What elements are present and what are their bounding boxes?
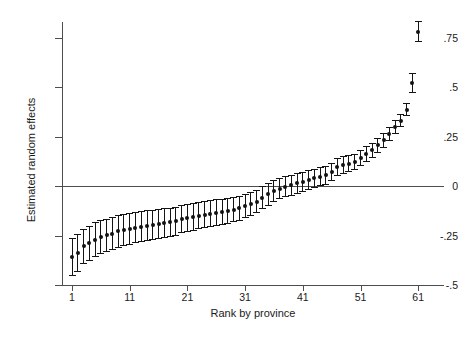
error-bar-lower-cap [253, 212, 260, 213]
error-bar-lower-cap [265, 205, 272, 206]
error-bar-lower-cap [340, 173, 347, 174]
error-bar-lower-cap [409, 92, 416, 93]
error-bar-lower-cap [109, 249, 116, 250]
error-bar-lower-cap [201, 227, 208, 228]
error-bar-lower-cap [86, 260, 93, 261]
error-bar-lower-cap [357, 165, 364, 166]
error-bar-lower-cap [397, 126, 404, 127]
error-bar-lower-cap [236, 220, 243, 221]
error-bar-lower-cap [138, 241, 145, 242]
point-marker [399, 119, 403, 123]
point-marker [416, 30, 420, 34]
error-bar-lower-cap [392, 133, 399, 134]
error-bar-lower-cap [374, 152, 381, 153]
error-bar-lower-cap [363, 161, 370, 162]
series-estimated-random-effects [0, 0, 458, 348]
error-bar-lower-cap [167, 236, 174, 237]
chart-figure: .75.5.250-.25-.5 1112131415161 Estimated… [0, 0, 458, 348]
error-bar-lower-cap [230, 221, 237, 222]
error-bar-upper-cap [409, 73, 416, 74]
error-bar-lower-cap [103, 251, 110, 252]
error-bar-lower-cap [328, 180, 335, 181]
error-bar-lower-cap [369, 157, 376, 158]
error-bar-lower-cap [276, 198, 283, 199]
error-bar-lower-cap [345, 171, 352, 172]
error-bar-lower-cap [80, 263, 87, 264]
error-bar-lower-cap [288, 195, 295, 196]
error-bar-lower-cap [213, 225, 220, 226]
error-bar-lower-cap [242, 217, 249, 218]
error-bar-lower-cap [92, 256, 99, 257]
error-bar-lower-cap [317, 185, 324, 186]
error-bar-lower-cap [247, 215, 254, 216]
data-point-with-error-bar [412, 21, 424, 43]
error-bar-lower-cap [195, 228, 202, 229]
error-bar-lower-cap [97, 253, 104, 254]
error-bar-lower-cap [120, 245, 127, 246]
error-bar-lower-cap [294, 193, 301, 194]
error-bar-lower-cap [219, 224, 226, 225]
error-bar-upper-cap [403, 103, 410, 104]
error-bar-lower-cap [224, 223, 231, 224]
error-bar-lower-cap [311, 187, 318, 188]
error-bar-lower-cap [115, 247, 122, 248]
error-bar-lower-cap [299, 191, 306, 192]
error-bar-lower-cap [207, 226, 214, 227]
error-bar-lower-cap [155, 238, 162, 239]
error-bar-lower-cap [172, 235, 179, 236]
error-bar-lower-cap [386, 140, 393, 141]
point-marker [405, 108, 409, 112]
error-bar-upper-cap [415, 21, 422, 22]
error-bar-lower-cap [270, 201, 277, 202]
error-bar-lower-cap [351, 169, 358, 170]
error-bar-lower-cap [305, 189, 312, 190]
error-bar-lower-cap [380, 147, 387, 148]
point-marker [410, 81, 414, 85]
error-bar-lower-cap [334, 175, 341, 176]
error-bar-lower-cap [126, 244, 133, 245]
error-bar-lower-cap [190, 230, 197, 231]
error-bar-lower-cap [282, 196, 289, 197]
error-bar-lower-cap [259, 208, 266, 209]
error-bar-lower-cap [132, 242, 139, 243]
error-bar-lower-cap [322, 184, 329, 185]
error-bar-lower-cap [149, 239, 156, 240]
error-bar-lower-cap [74, 271, 81, 272]
error-bar-lower-cap [178, 232, 185, 233]
error-bar-lower-cap [184, 231, 191, 232]
error-bar-lower-cap [161, 237, 168, 238]
error-bar-lower-cap [415, 41, 422, 42]
error-bar-lower-cap [69, 275, 76, 276]
error-bar-lower-cap [403, 115, 410, 116]
data-point-with-error-bar [406, 73, 418, 93]
data-point-with-error-bar [401, 103, 413, 116]
error-bar-lower-cap [144, 240, 151, 241]
